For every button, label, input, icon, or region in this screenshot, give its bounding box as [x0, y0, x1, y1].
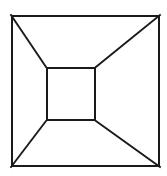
perspective-box-figure: Perspective box illusion Line drawing of… [0, 0, 167, 176]
perspective-box-drawing [0, 0, 167, 176]
